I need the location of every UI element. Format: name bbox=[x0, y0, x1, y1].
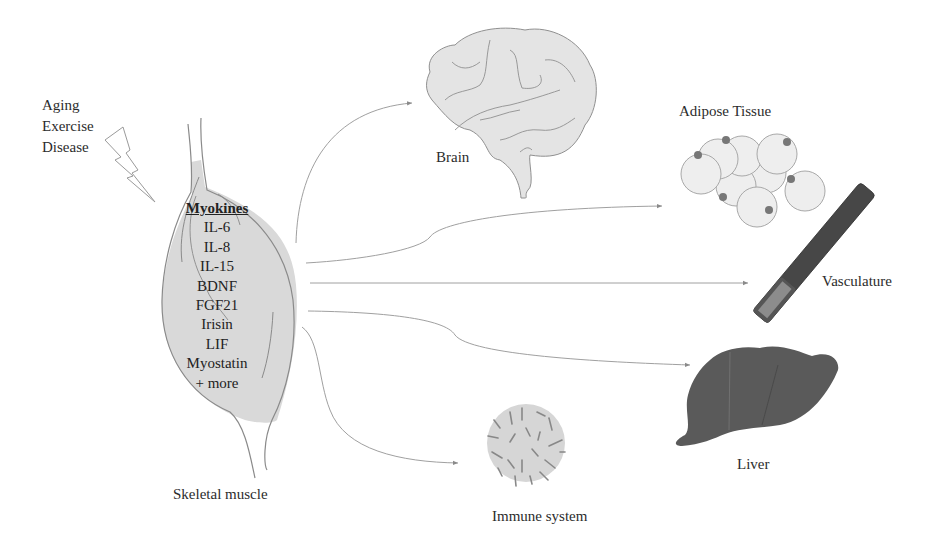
brain-label: Brain bbox=[436, 148, 469, 166]
liver-illustration bbox=[676, 347, 838, 446]
brain-illustration bbox=[427, 28, 597, 198]
immune-system-label: Immune system bbox=[492, 507, 587, 525]
arrow-to-liver bbox=[308, 311, 690, 365]
myokine-item: + more bbox=[162, 374, 272, 393]
stimulus-exercise: Exercise bbox=[42, 116, 94, 137]
myokine-item: Irisin bbox=[162, 315, 272, 334]
adipose-tissue-label: Adipose Tissue bbox=[679, 102, 771, 120]
stimuli-list: Aging Exercise Disease bbox=[42, 95, 94, 158]
diagram-canvas bbox=[0, 0, 949, 548]
skeletal-muscle-label: Skeletal muscle bbox=[173, 485, 268, 503]
myokine-item: FGF21 bbox=[162, 296, 272, 315]
stimulus-disease: Disease bbox=[42, 137, 94, 158]
myokine-item: IL-15 bbox=[162, 257, 272, 276]
arrow-to-immune bbox=[302, 327, 458, 463]
arrow-to-adipose bbox=[306, 206, 662, 263]
myokines-title: Myokines bbox=[162, 199, 272, 218]
lightning-bolt-icon bbox=[105, 127, 155, 202]
immune-cell-illustration bbox=[487, 404, 565, 486]
myokine-item: IL-6 bbox=[162, 218, 272, 237]
myokine-item: Myostatin bbox=[162, 354, 272, 373]
myokine-item: LIF bbox=[162, 335, 272, 354]
arrow-to-brain bbox=[296, 103, 412, 243]
myokine-item: IL-8 bbox=[162, 238, 272, 257]
myokine-item: BDNF bbox=[162, 277, 272, 296]
adipose-tissue-illustration bbox=[681, 134, 825, 227]
myokines-list: Myokines IL-6 IL-8 IL-15 BDNF FGF21 Iris… bbox=[162, 199, 272, 393]
stimulus-aging: Aging bbox=[42, 95, 94, 116]
liver-label: Liver bbox=[737, 455, 769, 473]
vasculature-label: Vasculature bbox=[822, 272, 892, 290]
